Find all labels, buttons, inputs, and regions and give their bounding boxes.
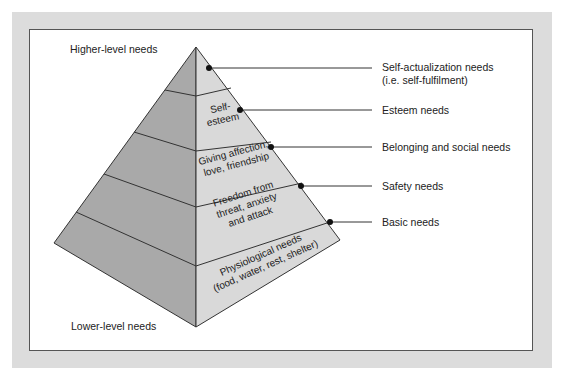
belonging-needs-label: Belonging and social needs (382, 141, 510, 154)
lower-level-needs-label: Lower-level needs (71, 320, 156, 333)
safety-needs-label: Safety needs (382, 180, 443, 193)
pyramid-diagram: Self- esteem Giving affection, love, fri… (0, 0, 562, 375)
esteem-needs-label: Esteem needs (382, 104, 449, 117)
pyramid-left-face (54, 47, 196, 327)
basic-needs-label: Basic needs (382, 216, 439, 229)
higher-level-needs-label: Higher-level needs (70, 43, 158, 56)
self-actualization-label: Self-actualization needs (i.e. self-fulf… (382, 61, 494, 87)
